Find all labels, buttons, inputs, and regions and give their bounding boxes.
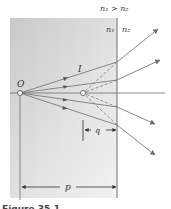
figure-caption: Figure 35.1…: [2, 204, 69, 209]
medium-1-label: n₁: [106, 25, 114, 34]
refraction-diagram: n₁ > n₂ n₁ n₂ I O q p Figure 35.1…: [0, 0, 171, 209]
object-point: [18, 91, 23, 96]
image-distance-label: q: [95, 126, 100, 135]
index-condition-label: n₁ > n₂: [100, 4, 129, 13]
ray-label: I: [77, 64, 82, 74]
object-label: O: [17, 79, 25, 89]
refracted-rays: [117, 29, 160, 155]
medium-2-label: n₂: [122, 25, 130, 34]
image-point: [81, 91, 86, 96]
object-distance-label: p: [65, 182, 71, 192]
